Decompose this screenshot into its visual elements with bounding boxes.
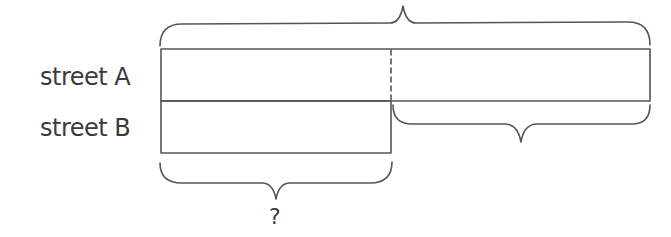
unknown-value-label: ? [269, 206, 281, 228]
difference-brace [393, 105, 650, 142]
street-b-label: street B [40, 116, 130, 140]
street-a-bar [161, 49, 650, 101]
street-b-bar [161, 101, 391, 153]
bar-model-diagram: street A street B ? [0, 0, 671, 237]
street-a-label: street A [40, 65, 130, 89]
bottom-brace [160, 162, 392, 199]
top-brace [160, 6, 650, 46]
